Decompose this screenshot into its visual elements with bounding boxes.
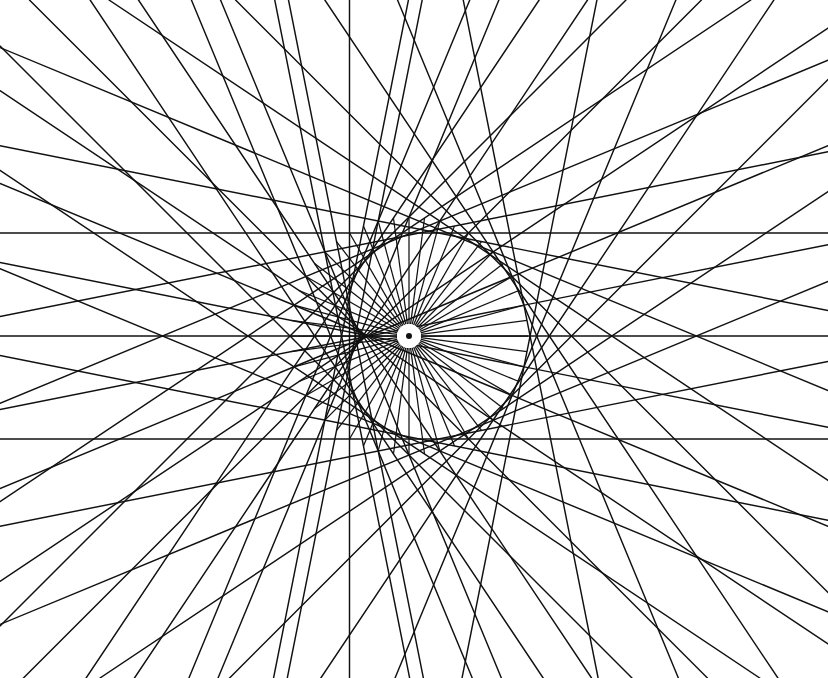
center-dot [406, 333, 412, 339]
figure-canvas [0, 0, 828, 678]
chord-envelope-figure [0, 0, 828, 678]
hub-layer [397, 324, 421, 348]
